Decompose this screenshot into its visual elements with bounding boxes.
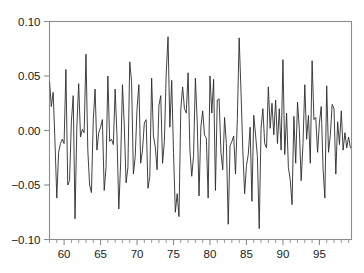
chart-figure: 6065707580859095 0.100.050.00−0.05−0.10 xyxy=(0,0,364,273)
y-tick-label: −0.10 xyxy=(11,234,40,246)
y-tick-label: 0.05 xyxy=(18,70,40,82)
x-tick-label: 80 xyxy=(204,248,217,260)
x-tick-label: 70 xyxy=(131,248,144,260)
y-tick-label: −0.05 xyxy=(11,179,40,191)
x-tick-label: 95 xyxy=(313,248,326,260)
x-tick-label: 85 xyxy=(240,248,253,260)
x-tick-label: 65 xyxy=(94,248,107,260)
y-tick-label: 0.10 xyxy=(18,16,40,28)
x-tick-label: 60 xyxy=(58,248,71,260)
x-tick-label: 90 xyxy=(277,248,290,260)
y-tick-label: 0.00 xyxy=(18,125,40,137)
line-chart: 6065707580859095 0.100.050.00−0.05−0.10 xyxy=(0,0,364,273)
x-tick-label: 75 xyxy=(167,248,180,260)
